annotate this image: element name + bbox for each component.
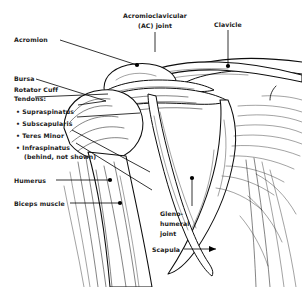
clavicle-point: [226, 64, 230, 68]
infraspinatus-note: (behind, not shown): [24, 153, 96, 160]
humerus-point: [108, 178, 112, 182]
ac-joint-label-line1: Acromioclavicular: [123, 12, 188, 19]
glenohumeral-point: [190, 176, 194, 180]
supraspinatus-label: • Supraspinatus: [16, 108, 74, 116]
clavicle-label: Clavicle: [214, 21, 242, 28]
acromion-point: [135, 63, 139, 67]
glenohumeral-label-line2: humeral: [160, 220, 190, 227]
rotator-cuff-label-line1: Rotator Cuff: [14, 86, 58, 93]
bursa-label: Bursa: [14, 75, 35, 82]
teres-minor-label: • Teres Minor: [16, 132, 65, 139]
glenohumeral-label-line1: Gleno-: [160, 210, 184, 217]
shoulder-anatomy-diagram: Acromioclavicular (AC) joint Clavicle Ac…: [0, 0, 302, 287]
acromion-label: Acromion: [14, 36, 48, 43]
ac-joint-label-line2: (AC) joint: [138, 22, 172, 30]
scapula-label: Scapula: [152, 246, 180, 254]
biceps-muscle-label: Biceps muscle: [14, 200, 65, 208]
infraspinatus-label: • Infraspinatus: [16, 144, 70, 152]
biceps-point: [118, 201, 122, 205]
subscapularis-label: • Subscapularis: [16, 120, 73, 128]
rotator-cuff-label-line2: Tendons:: [14, 95, 46, 102]
glenohumeral-label-line3: joint: [159, 230, 176, 238]
humerus-label: Humerus: [14, 177, 46, 184]
